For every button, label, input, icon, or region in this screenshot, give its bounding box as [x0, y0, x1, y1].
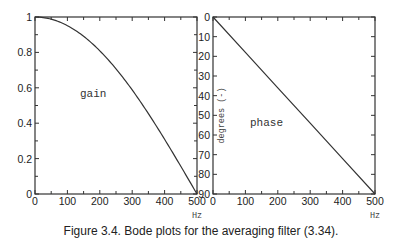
x-tick-label: 200: [269, 195, 287, 207]
gain-plot: 010020030040050000.20.40.60.81gainHz: [17, 11, 206, 221]
x-tick-label: 300: [123, 195, 141, 207]
y-tick-label: 0.8: [17, 46, 32, 58]
x-tick-label: 100: [59, 195, 77, 207]
gain-curve: [35, 17, 197, 194]
x-tick-label: 300: [301, 195, 319, 207]
y-tick-label: 10: [198, 31, 210, 43]
y-tick-label: 0: [204, 11, 210, 23]
y-tick-label: 80: [198, 168, 210, 180]
x-tick-label: 200: [91, 195, 109, 207]
x-tick-label: 400: [334, 195, 352, 207]
phase-annotation: phase: [250, 117, 283, 129]
y-tick-label: 60: [198, 129, 210, 141]
x-axis-label: Hz: [370, 211, 380, 221]
y-tick-label: 50: [198, 109, 210, 121]
y-axis-label: degrees (-): [217, 87, 227, 143]
figure-caption: Figure 3.4. Bode plots for the averaging…: [0, 224, 402, 238]
y-tick-label: 40: [198, 90, 210, 102]
x-tick-label: 500: [366, 195, 384, 207]
x-tick-label: 100: [237, 195, 255, 207]
phase-curve: [213, 17, 375, 194]
y-tick-label: 70: [198, 149, 210, 161]
y-tick-label: 90: [198, 188, 210, 200]
y-tick-label: 0.2: [17, 153, 32, 165]
gain-annotation: gain: [80, 88, 106, 100]
phase-plot: 01002003004005000102030405060708090phase…: [198, 11, 384, 221]
y-tick-label: 20: [198, 50, 210, 62]
x-axis-label: Hz: [192, 211, 202, 221]
y-tick-label: 30: [198, 70, 210, 82]
x-tick-label: 400: [156, 195, 174, 207]
axes-frame: [35, 17, 197, 194]
x-tick-label: 0: [32, 195, 38, 207]
x-tick-label: 0: [210, 195, 216, 207]
bode-plots: 010020030040050000.20.40.60.81gainHz 010…: [0, 0, 402, 243]
y-tick-label: 1: [26, 11, 32, 23]
y-tick-label: 0.6: [17, 82, 32, 94]
y-tick-label: 0: [26, 188, 32, 200]
y-tick-label: 0.4: [17, 117, 32, 129]
